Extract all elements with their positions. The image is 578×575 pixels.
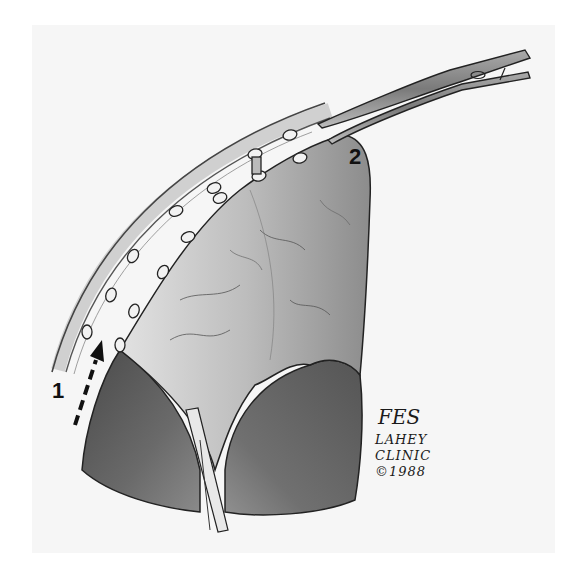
copyright-line-2: CLINIC xyxy=(375,448,431,464)
step-label-1: 1 xyxy=(52,378,64,404)
forceps-instrument xyxy=(318,50,530,144)
copyright-line-3: ©1988 xyxy=(375,464,431,480)
surgical-illustration xyxy=(0,0,578,575)
step-label-2: 2 xyxy=(349,144,361,170)
copyright-line-1: LAHEY xyxy=(375,432,431,448)
artist-initials: FES xyxy=(378,405,420,429)
copyright-block: LAHEY CLINIC ©1988 xyxy=(375,432,431,480)
